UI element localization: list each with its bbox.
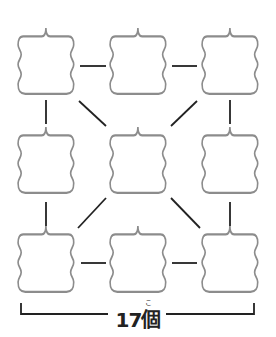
box-r1-c2 [110,28,166,94]
box-grid [18,28,258,292]
box-r1-c3 [202,28,258,94]
box-r2-c2 [110,127,166,193]
box-r3-c1 [18,226,74,292]
total-count-label: 17個 [0,304,276,333]
box-r3-c2 [110,226,166,292]
box-r2-c1 [18,127,74,193]
box-r2-c3 [202,127,258,193]
box-r3-c3 [202,226,258,292]
box-r1-c1 [18,28,74,94]
network-diagram [0,0,276,337]
